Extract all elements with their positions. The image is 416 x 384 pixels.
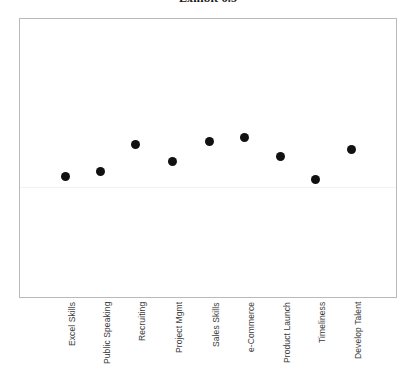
gridline-zero — [20, 187, 396, 188]
x-axis-tick-label: Project Mgmt — [175, 302, 184, 353]
x-axis-tick-label: Public Speaking — [103, 302, 112, 364]
data-point — [131, 140, 140, 149]
data-point — [240, 133, 249, 142]
chart-title: Exhibit 6.5 — [0, 0, 416, 5]
x-axis-tick-label: Timeliness — [318, 302, 327, 343]
x-axis-tick-label: Product Launch — [283, 302, 292, 363]
x-axis-tick-label: Recruiting — [138, 302, 147, 341]
data-point — [347, 145, 356, 154]
plot-area — [20, 19, 396, 297]
data-point — [311, 175, 320, 184]
data-point — [61, 172, 70, 181]
x-axis-tick-label: e-Commerce — [247, 302, 256, 352]
data-point — [96, 167, 105, 176]
plot-frame — [19, 18, 397, 298]
data-point — [276, 152, 285, 161]
x-axis-tick-label: Sales Skills — [212, 302, 221, 347]
x-axis: Excel SkillsPublic SpeakingRecruitingPro… — [19, 300, 397, 384]
x-axis-tick-label: Excel Skills — [68, 302, 77, 346]
data-point — [205, 137, 214, 146]
chart-figure: Exhibit 6.5 Excel SkillsPublic SpeakingR… — [0, 0, 416, 384]
x-axis-tick-label: Develop Talent — [354, 302, 363, 359]
data-point — [168, 157, 177, 166]
